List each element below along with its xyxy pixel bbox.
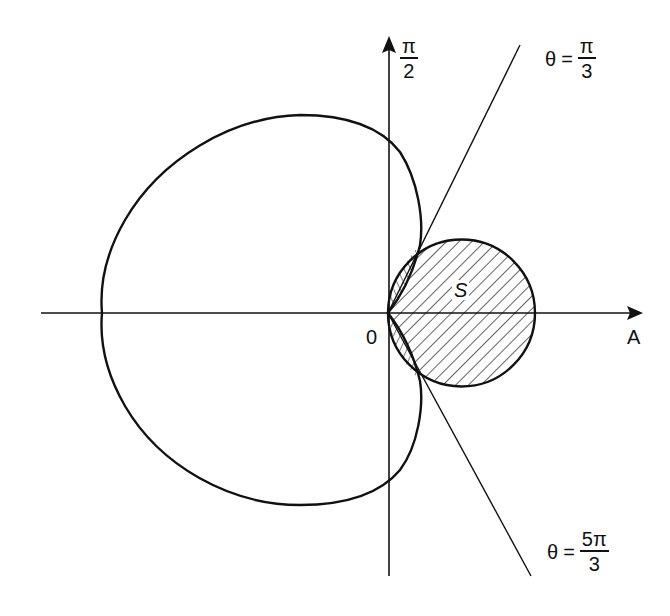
theta-symbol: θ [545,49,556,69]
ray-upper-numerator: π [578,36,596,59]
theta-symbol: θ [547,542,558,562]
polar-diagram [0,0,670,616]
region-s-label: S [452,280,469,300]
vertical-label-numerator: π [400,36,418,59]
ray-lower-label: θ = 5π 3 [547,529,609,574]
ray-lower-numerator: 5π [580,529,609,552]
ray-lower-denominator: 3 [589,552,600,574]
limacon-curve [101,115,421,505]
ray-upper-label: θ = π 3 [545,36,596,81]
equals-sign: = [563,542,575,562]
ray-upper-denominator: 3 [581,59,592,81]
pole-label: 0 [366,327,377,347]
vertical-axis-label: π 2 [400,36,418,81]
vertical-label-denominator: 2 [403,59,414,81]
polar-axis-label: A [627,327,640,347]
equals-sign: = [561,49,573,69]
